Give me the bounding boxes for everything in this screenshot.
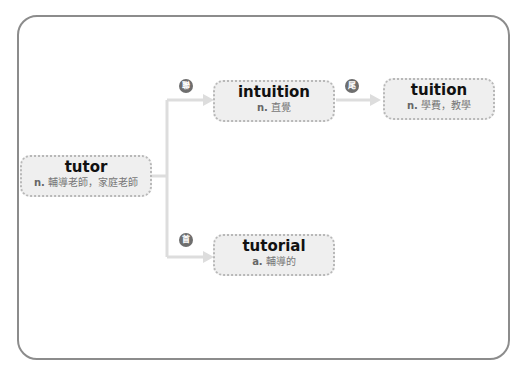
node-word: intuition xyxy=(215,84,333,101)
node-word: tuition xyxy=(385,82,493,99)
root-definition: n. 輔導老師，家庭老師 xyxy=(22,176,150,189)
root-word: tutor xyxy=(22,159,150,176)
badge-related-icon: 聯 xyxy=(179,79,193,93)
node-word: tutorial xyxy=(215,238,333,255)
node-definition: a. 輔導的 xyxy=(215,255,333,268)
node-tuition: tuition n. 學費，教學 xyxy=(383,78,495,120)
node-intuition: intuition n. 直覺 xyxy=(213,80,335,122)
root-node-tutor: tutor n. 輔導老師，家庭老師 xyxy=(20,155,152,197)
badge-suffix-icon: 尾 xyxy=(345,79,359,93)
node-tutorial: tutorial a. 輔導的 xyxy=(213,234,335,276)
badge-prefix-icon: 首 xyxy=(179,233,193,247)
node-definition: n. 直覺 xyxy=(215,101,333,114)
node-definition: n. 學費，教學 xyxy=(385,99,493,112)
